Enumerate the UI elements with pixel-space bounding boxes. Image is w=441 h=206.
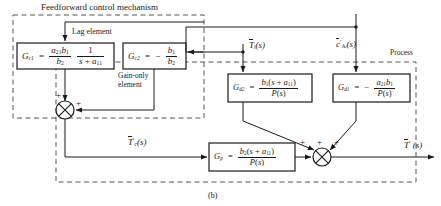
signal-label-controller-output: T′c(s) [128,136,146,147]
gc1-fraction-2: 1 s + a11 [77,46,104,67]
block-diagram-canvas [0,0,441,206]
gc1-fraction-1: a21b1 b2 [49,46,70,67]
signal-label-disturbance-concentration: c′Ai(s) [336,38,356,49]
gp-fraction: b2(s + a11) P(s) [238,147,276,167]
temperature-branch-node [241,50,244,53]
gc2-equals: = [142,51,153,61]
gd2-fraction: b1(s + a11) P(s) [259,78,297,98]
summer-process-sign-mid: + [317,137,322,147]
gc1-equals: = [36,51,47,61]
summer-controller-sign-right: + [76,98,81,108]
process-region-label: Process [390,48,413,57]
signal-label-disturbance-temperature: Ti(s) [249,40,265,50]
gd2-equals: = [247,82,258,92]
signal-label-process-output: T′ (s) [404,139,422,150]
gc2-fraction: b1 b2 [166,46,177,67]
gain-only-line2: element [118,80,142,89]
block-gd1-formula: Gd1 = − a21b1 P(s) [338,78,395,98]
block-gp-formula: Gp = b2(s + a11) P(s) [214,147,276,167]
block-gd2-formula: Gd2 = b1(s + a11) P(s) [233,78,298,98]
block-gc1-formula: Gc1 = a21b1 b2 1 s + a11 [22,46,104,67]
gd1-fraction: a21b1 P(s) [374,78,394,98]
figure-caption: (b) [208,191,217,200]
gain-only-element-label: Gain-only element [118,71,148,89]
feedforward-region-label: Feedforward control mechanism [41,2,158,12]
summer-controller-sign-top: + [56,90,61,100]
summer-process-sign-left: + [300,137,305,147]
summer-process-sign-right: + [334,137,339,147]
gd1-equals: = [352,82,363,92]
gp-equals: = [225,151,236,161]
lag-element-label: Lag element [72,27,112,36]
gd1-sign: − [364,82,369,92]
concentration-branch-node [354,25,357,28]
gc2-sign: − [155,51,160,61]
gain-only-line1: Gain-only [118,71,148,80]
block-gc2-formula: Gc2 = − b1 b2 [128,46,177,67]
